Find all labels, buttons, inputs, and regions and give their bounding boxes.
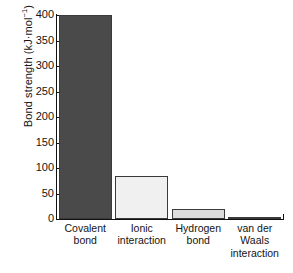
category-label-van-der-waals-interaction: van derWaalsinteraction bbox=[221, 222, 290, 259]
x-axis-line bbox=[56, 219, 284, 220]
y-axis-title-exponent: −1 bbox=[20, 9, 29, 18]
bar-van-der-waals-interaction bbox=[228, 217, 281, 219]
bar-ionic-interaction bbox=[115, 176, 168, 219]
x-axis-category-labels: CovalentbondIonicinteractionHydrogenbond… bbox=[57, 222, 283, 272]
plot-area bbox=[57, 15, 283, 219]
bar-covalent-bond bbox=[59, 15, 112, 219]
y-axis-tick-label: 150 bbox=[36, 136, 54, 148]
category-label-line: interaction bbox=[221, 247, 290, 259]
y-axis-tick-label: 250 bbox=[36, 85, 54, 97]
category-label-line: Waals bbox=[221, 234, 290, 246]
y-axis-title: Bond strength (kJ·mol−1) bbox=[22, 0, 34, 156]
category-label-line: van der bbox=[221, 222, 290, 234]
y-axis-tick-label: 200 bbox=[36, 110, 54, 122]
y-axis-tick-label: 350 bbox=[36, 34, 54, 46]
y-axis-tick-label: 100 bbox=[36, 161, 54, 173]
y-axis-title-tail: ) bbox=[22, 5, 34, 9]
y-axis-tick-label: 300 bbox=[36, 59, 54, 71]
y-axis-tick-label: 50 bbox=[42, 187, 54, 199]
y-axis-tick-label: 400 bbox=[36, 8, 54, 20]
bar-hydrogen-bond bbox=[172, 209, 225, 219]
y-axis-title-text: Bond strength (kJ·mol bbox=[22, 17, 34, 127]
x-axis-end-tick bbox=[283, 214, 284, 220]
bond-strength-bar-chart: Bond strength (kJ·mol−1) 400350300250200… bbox=[0, 0, 293, 273]
